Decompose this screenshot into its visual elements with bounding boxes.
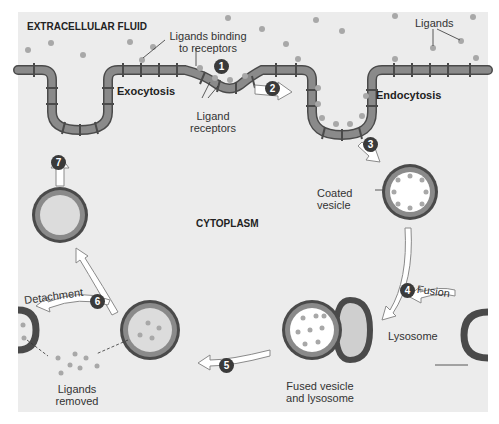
receptor-mediated-endocytosis-diagram: EXTRACELLULAR FLUID CYTOPLASM Ligands bi… <box>0 0 499 424</box>
receptor-vesicle <box>120 300 180 360</box>
step-6-badge: 6 <box>90 294 105 309</box>
recycled-vesicle <box>32 187 88 243</box>
step-1-badge: 1 <box>214 59 229 74</box>
ligand-receptors-label: Ligand receptors <box>188 110 238 134</box>
step-3-badge: 3 <box>363 137 378 152</box>
lysosome-label: Lysosome <box>388 330 438 342</box>
ligands-removed-label: Ligands removed <box>52 383 102 407</box>
ligands-label: Ligands <box>415 17 454 29</box>
step-4-badge: 4 <box>400 283 415 298</box>
exocytosis-label: Exocytosis <box>117 85 175 97</box>
extracellular-fluid-label: EXTRACELLULAR FLUID <box>27 21 147 33</box>
ligands-binding-label: Ligands binding to receptors <box>168 30 248 54</box>
cytoplasm-label: CYTOPLASM <box>196 218 259 230</box>
step-7-badge: 7 <box>51 155 66 170</box>
coated-vesicle-label: Coated vesicle <box>317 187 352 211</box>
endocytosis-label: Endocytosis <box>376 89 441 101</box>
diagram-canvas <box>0 0 499 424</box>
fused-vesicle-label: Fused vesicle and lysosome <box>280 380 360 404</box>
step-5-badge: 5 <box>219 358 234 373</box>
step-2-badge: 2 <box>265 81 280 96</box>
fused-vesicle-lysosome <box>282 300 370 360</box>
coated-vesicle <box>382 164 438 220</box>
